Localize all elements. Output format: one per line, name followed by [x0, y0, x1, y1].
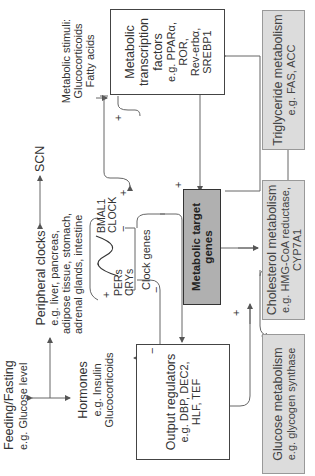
cholesterol-sub2: CYP7A1 — [291, 229, 303, 271]
minus-sign-clock: − — [117, 226, 129, 232]
glucose-sub: e.g. glycogen synthase — [285, 348, 297, 461]
plus-sign-transcription: + — [112, 115, 124, 121]
minus-sign-output: − — [150, 287, 162, 293]
hormones-sub2: Glucocorticoids — [103, 340, 115, 440]
peripheral-clocks-title: Peripheral clocks — [34, 222, 48, 334]
peripheral-clocks-line3: adrenal glands, intestine — [72, 222, 84, 334]
output-line1: Output regulators — [164, 354, 178, 451]
scn-label: SCN — [33, 146, 47, 172]
output-regulators-box: Output regulators e.g. DBP, DEC2, HLF, T… — [136, 344, 230, 460]
glucose-metabolism-box: Glucose metabolism e.g. glycogen synthas… — [262, 334, 305, 474]
glucose-title: Glucose metabolism — [271, 347, 285, 460]
transcription-line1: Metabolic — [123, 25, 137, 79]
transcription-line5: ROR, — [177, 38, 189, 66]
cholesterol-title: Cholesterol metabolism — [265, 185, 279, 316]
minus-sign-output-box: − — [146, 348, 158, 354]
plus-sign-pers: + — [100, 292, 112, 298]
hormones-sub1: e.g. Insulin — [91, 340, 103, 440]
triglyceride-sub: e.g. FAS, ACC — [285, 45, 297, 116]
metabolic-stimuli-line1: Glucocorticoids — [72, 16, 84, 106]
transcription-factors-box: Metabolic transcription factors e.g. PPA… — [110, 9, 225, 95]
transcription-line4: e.g. PPARα, — [165, 22, 177, 82]
crys-label: CRYs — [123, 269, 135, 296]
plus-sign-target-left: + — [230, 310, 242, 316]
output-line3: HLF, TEF — [190, 379, 202, 425]
plus-sign-clock: + — [117, 190, 129, 196]
transcription-line7: SREBP1 — [201, 30, 213, 73]
transcription-line3: factors — [151, 33, 165, 71]
transcription-line2: transcription — [137, 18, 151, 86]
triglyceride-title: Triglyceride metabolism — [271, 14, 285, 146]
peripheral-clocks-line2: adipose tissue, stomach, — [60, 222, 72, 334]
output-line2: e.g. DBP, DEC2, — [178, 361, 190, 442]
metabolic-stimuli-title: Metabolic stimuli: — [60, 16, 72, 106]
hormones-title: Hormones — [76, 340, 90, 440]
transcription-line6: Rev-erbα, — [189, 28, 201, 77]
plus-sign-target-top: + — [172, 182, 184, 188]
feeding-fasting-title: Feeding/Fasting — [2, 360, 16, 450]
feeding-fasting-sub: e.g. Glucose level — [17, 363, 29, 450]
cholesterol-sub1: e.g. HMG-CoA reductase, — [279, 187, 291, 313]
target-line2: genes — [202, 230, 214, 263]
target-genes-box: Metabolic target genes — [183, 189, 221, 305]
clock-genes-label: Clock genes — [140, 229, 152, 290]
metabolic-stimuli-line2: Fatty acids — [84, 16, 96, 106]
peripheral-clocks-line1: e.g. liver, pancreas, — [48, 222, 60, 334]
target-line1: Metabolic target — [190, 203, 202, 291]
triglyceride-metabolism-box: Triglyceride metabolism e.g. FAS, ACC — [262, 10, 305, 150]
cholesterol-metabolism-box: Cholesterol metabolism e.g. HMG-CoA redu… — [262, 180, 305, 320]
diagram-canvas: Feeding/Fasting e.g. Glucose level Hormo… — [0, 0, 315, 476]
